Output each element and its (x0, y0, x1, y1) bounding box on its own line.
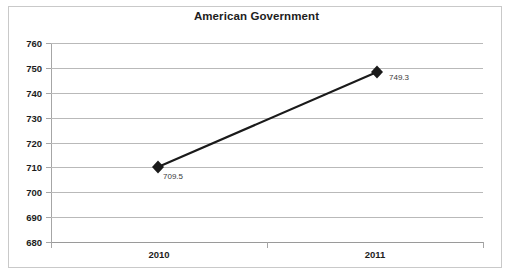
gridline-700 (51, 192, 483, 193)
gridline-720 (51, 143, 483, 144)
y-axis-tick-label-750: 750 (8, 63, 42, 74)
y-axis-tick-label-710: 710 (8, 162, 42, 173)
gridline-730 (51, 118, 483, 119)
gridline-690 (51, 217, 483, 218)
chart-screenshot: American Government 760 750 740 730 720 … (0, 0, 513, 276)
data-label-2010: 709.5 (163, 172, 183, 181)
x-axis-tick-mark-start (51, 242, 52, 248)
y-axis-tick-label-720: 720 (8, 138, 42, 149)
y-axis-tick-label-690: 690 (8, 212, 42, 223)
x-axis-tick-mark-end (483, 242, 484, 248)
x-axis-tick-mark-middle (267, 242, 268, 248)
gridline-710 (51, 167, 483, 168)
x-axis-tick-label-2011: 2011 (345, 249, 405, 260)
data-label-2011: 749.3 (389, 73, 409, 82)
gridline-740 (51, 93, 483, 94)
y-axis-tick-label-680: 680 (8, 237, 42, 248)
gridline-760 (51, 43, 483, 44)
y-axis-tick-label-730: 730 (8, 113, 42, 124)
gridline-750 (51, 68, 483, 69)
y-axis-tick-label-740: 740 (8, 88, 42, 99)
y-axis-tick-label-700: 700 (8, 187, 42, 198)
y-axis-tick-label-760: 760 (8, 38, 42, 49)
x-axis-tick-label-2010: 2010 (129, 249, 189, 260)
chart-title: American Government (0, 10, 513, 22)
plot-area (51, 43, 483, 242)
